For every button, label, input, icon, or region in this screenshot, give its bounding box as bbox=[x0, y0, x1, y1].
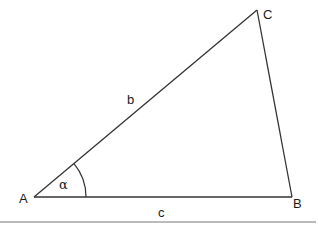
side-label-c: c bbox=[158, 205, 165, 220]
side-b bbox=[34, 10, 257, 197]
vertex-label-c: C bbox=[263, 7, 272, 22]
angle-label-alpha: α bbox=[59, 177, 68, 192]
vertex-label-a: A bbox=[19, 191, 28, 206]
side-a bbox=[257, 10, 292, 197]
side-label-b: b bbox=[127, 92, 134, 107]
angle-alpha-arc bbox=[74, 164, 86, 197]
vertex-label-b: B bbox=[293, 196, 302, 211]
triangle-diagram: A B C b c α bbox=[0, 0, 318, 227]
